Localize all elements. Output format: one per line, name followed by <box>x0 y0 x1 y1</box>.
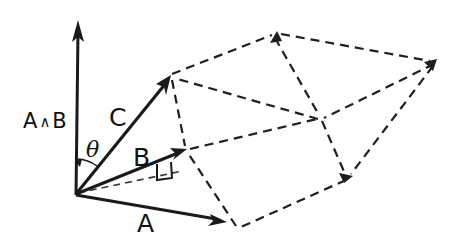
label-vector-a: A <box>137 211 154 236</box>
label-bivector-a-wedge-b: A∧B <box>23 111 68 132</box>
vector-a-arrowhead <box>208 214 227 226</box>
parallelepiped-edge-mid-left-center <box>190 119 317 149</box>
label-bivector-b: B <box>52 109 67 133</box>
parallelepiped-edge-vertical-back <box>275 38 319 115</box>
right-angle-marker <box>157 162 172 180</box>
bivector-axis-arrow <box>72 20 84 195</box>
label-bivector-a: A <box>23 109 38 133</box>
label-vector-b: B <box>133 145 150 170</box>
parallelepiped-edge-mid-right-front <box>241 180 346 227</box>
parallelepiped-edge-top-back-right <box>281 34 430 61</box>
parallelepiped-arrowhead-top-back <box>270 31 282 43</box>
parallelepiped-edge-top-left-back <box>172 35 272 74</box>
label-angle-theta: θ <box>86 139 99 161</box>
label-vector-c: C <box>109 105 126 130</box>
diagram-canvas <box>0 0 453 246</box>
bivector-axis-shaft <box>76 32 78 195</box>
parallelepiped-edge-vertical-right <box>351 66 433 174</box>
dashed-parallelepiped <box>172 31 437 227</box>
vector-diagram-figure: A∧B C B A θ <box>0 0 453 246</box>
parallelepiped-edge-top-center-left <box>174 78 318 119</box>
wedge-icon: ∧ <box>38 113 52 131</box>
parallelepiped-edge-top-right-center <box>324 64 434 118</box>
parallelepiped-edge-mid-center-right <box>322 121 346 176</box>
parallelepiped-edge-vertical-left <box>172 80 185 146</box>
